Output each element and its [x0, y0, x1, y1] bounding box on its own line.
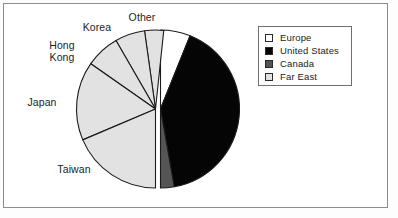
pie-label-other: Other: [118, 12, 166, 24]
legend-swatch-icon-3: [265, 73, 273, 81]
legend-swatch-icon-0: [265, 34, 273, 42]
pie-label-hong-kong: Hong Kong: [38, 40, 86, 63]
legend-label-3: Far East: [280, 71, 317, 82]
legend-swatch-icon-2: [265, 60, 273, 68]
pie-label-japan: Japan: [18, 97, 66, 109]
chart-page: Other Korea Hong Kong Japan Taiwan Europ…: [0, 0, 398, 218]
legend-swatch-icon-1: [265, 47, 273, 55]
legend: Europe United States Canada Far East: [258, 26, 352, 86]
pie-label-korea: Korea: [73, 22, 121, 34]
legend-item-0[interactable]: Europe: [265, 31, 346, 44]
legend-label-2: Canada: [280, 58, 314, 69]
pie-label-taiwan: Taiwan: [50, 164, 98, 176]
pie-half-right: [161, 30, 240, 188]
legend-label-0: Europe: [280, 32, 312, 43]
legend-item-1[interactable]: United States: [265, 44, 346, 57]
legend-item-2[interactable]: Canada: [265, 57, 346, 70]
legend-item-3[interactable]: Far East: [265, 70, 346, 83]
legend-label-1: United States: [280, 45, 339, 56]
